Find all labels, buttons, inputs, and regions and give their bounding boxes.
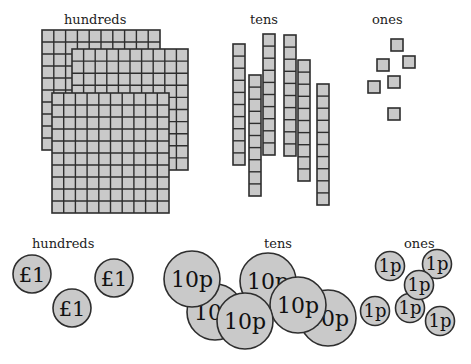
pound-coin: £1 [53,289,91,327]
ten-rod [249,75,261,196]
one-pence-coins-group: 1p1p1p1p1p1p [361,250,455,336]
ten-rod [284,35,296,156]
ten-rod [317,84,329,205]
ten-pence-coin: 10p [270,277,326,333]
one-cube [377,59,389,71]
pound-coins-group: £1£1£1 [13,255,133,327]
label-blocks-tens: tens [250,12,278,27]
one-pence-coin-label: 1p [364,300,387,321]
label-coins-ones: ones [404,236,435,251]
one-pence-coin-label: 1p [399,297,422,318]
one-pence-coin: 1p [361,297,390,326]
one-pence-coin-label: 1p [429,310,452,331]
ten-rod [233,44,245,165]
ten-pence-coin: 10p [164,251,220,307]
ten-pence-coin-label: 10p [224,309,266,334]
one-cube [391,39,403,51]
place-value-diagram: £1£1£1 10p10p10p10p10p10p 1p1p1p1p1p1p h… [0,0,471,364]
label-blocks-ones: ones [372,12,403,27]
ten-pence-coins-group: 10p10p10p10p10p10p [164,251,356,349]
one-pence-coin: 1p [426,307,455,336]
pound-coin-label: £1 [19,263,46,287]
one-pence-coin-label: 1p [408,274,431,295]
one-cube [388,108,400,120]
ten-rod [298,60,310,181]
pound-coin-label: £1 [101,267,128,291]
one-cube [368,81,380,93]
ten-pence-coin-label: 10p [171,267,213,292]
one-pence-coin-label: 1p [379,255,402,276]
tens-rods-group [233,34,329,205]
pound-coin-label: £1 [59,297,86,321]
ten-pence-coin: 10p [217,293,273,349]
pound-coin: £1 [13,255,51,293]
one-cube [388,76,400,88]
ten-pence-coin-label: 10p [277,293,319,318]
one-pence-coin: 1p [405,271,434,300]
ten-rod [263,34,275,155]
label-blocks-hundreds: hundreds [64,12,126,27]
ones-cubes-group [368,39,415,120]
one-pence-coin-label: 1p [426,253,449,274]
one-pence-coin: 1p [376,252,405,281]
hundreds-blocks-group [42,30,188,213]
label-coins-hundreds: hundreds [32,236,94,251]
hundred-flat [52,93,169,213]
label-coins-tens: tens [264,236,292,251]
pound-coin: £1 [95,259,133,297]
one-cube [403,56,415,68]
